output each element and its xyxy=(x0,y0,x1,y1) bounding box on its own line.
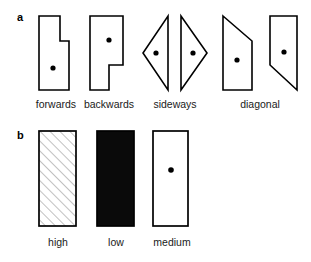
swatch-high xyxy=(38,130,78,228)
shape-diagonal-left xyxy=(221,15,255,91)
shape-forwards-outline xyxy=(39,16,69,90)
shape-sideways-left xyxy=(142,15,170,91)
swatch-medium-dot xyxy=(168,167,174,173)
panel-a: a forwards backwards sideways xyxy=(0,0,311,122)
swatch-medium-fill xyxy=(153,131,188,226)
shape-sideways-left-dot xyxy=(153,50,158,55)
caption-diagonal: diagonal xyxy=(222,98,298,110)
shape-diagonal-right xyxy=(265,15,299,91)
shape-sideways-right xyxy=(179,15,209,91)
shape-diagonal-left-outline xyxy=(223,16,252,90)
figure-root: a forwards backwards sideways xyxy=(0,0,311,262)
shape-diagonal-right-dot xyxy=(281,49,286,54)
panel-b: b high low medium xyxy=(0,122,311,262)
shape-sideways-right-dot xyxy=(190,50,195,55)
shape-forwards xyxy=(38,15,74,91)
shape-backwards-outline xyxy=(90,16,123,90)
caption-medium: medium xyxy=(134,236,210,248)
shape-forwards-dot xyxy=(50,65,55,70)
swatch-medium xyxy=(152,130,192,228)
swatch-low-fill xyxy=(97,131,134,226)
shape-diagonal-left-dot xyxy=(234,57,239,62)
caption-backwards: backwards xyxy=(71,98,147,110)
panel-a-label: a xyxy=(17,12,23,23)
shape-backwards xyxy=(89,15,129,91)
shape-backwards-dot xyxy=(106,37,111,42)
swatch-low xyxy=(96,130,136,228)
caption-sideways: sideways xyxy=(137,98,213,110)
swatch-high-fill xyxy=(39,131,76,226)
panel-b-label: b xyxy=(17,130,24,141)
